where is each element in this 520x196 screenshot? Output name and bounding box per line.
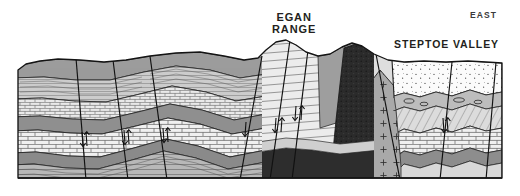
- left-folded-block: [10, 38, 266, 180]
- label-steptoe-valley: STEPTOE VALLEY: [394, 39, 499, 51]
- cross-section-drawing: [0, 0, 520, 196]
- label-east-direction: EAST: [470, 11, 497, 21]
- egan-range-block: [256, 30, 380, 182]
- geologic-cross-section-figure: EGAN RANGE STEPTOE VALLEY EAST: [0, 0, 520, 196]
- label-egan-range: EGAN RANGE: [272, 11, 316, 36]
